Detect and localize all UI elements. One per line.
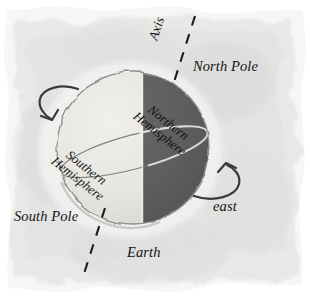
axis-dashed-line-top — [174, 16, 195, 82]
rotation-arrow-right — [194, 163, 239, 199]
label-earth: Earth — [127, 245, 161, 260]
label-east: east — [213, 199, 237, 214]
axis-dashed-line-bottom — [82, 208, 105, 280]
earth-rotation-diagram: Axis North Pole South Pole Earth east No… — [0, 0, 310, 296]
label-south-pole: South Pole — [14, 209, 78, 224]
label-north-pole: North Pole — [193, 59, 258, 74]
rotation-arrow-left — [40, 86, 78, 120]
